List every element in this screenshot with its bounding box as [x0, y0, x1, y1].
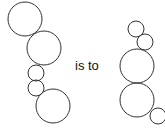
- relation-label: is to: [75, 58, 99, 73]
- left-circle-3: [28, 65, 44, 81]
- left-circle-5: [36, 89, 70, 123]
- left-circle-2: [27, 31, 61, 65]
- right-circle-3: [120, 49, 154, 83]
- right-circle-figure: [120, 21, 165, 124]
- right-circle-4: [120, 83, 154, 117]
- right-circle-5: [150, 108, 165, 124]
- left-circle-figure: [8, 2, 70, 123]
- right-circle-2: [137, 34, 153, 50]
- left-circle-1: [8, 2, 42, 36]
